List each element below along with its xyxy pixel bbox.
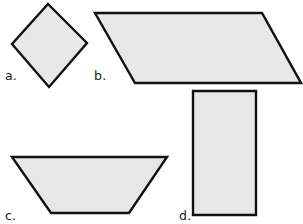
shape-label-b: b. (94, 68, 106, 83)
shape-label-d: d. (179, 208, 191, 223)
shape-d-rectangle[interactable] (193, 91, 256, 215)
figure-container: a. b. c. d. (0, 0, 303, 224)
quadrilaterals-figure: a. b. c. d. (0, 0, 303, 224)
shape-label-c: c. (5, 208, 16, 223)
shape-label-a: a. (5, 68, 17, 83)
